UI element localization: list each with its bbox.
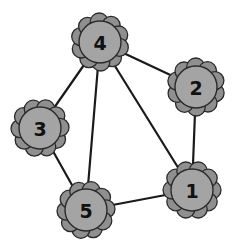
node-1: 1 (163, 162, 221, 218)
node-5: 5 (57, 182, 115, 239)
node-label: 1 (185, 180, 198, 202)
node-3: 3 (11, 100, 69, 156)
node-label: 5 (79, 200, 92, 222)
graph-diagram: 12345 (0, 0, 235, 250)
node-label: 4 (93, 32, 106, 54)
node-label: 2 (189, 77, 202, 99)
node-2: 2 (168, 58, 224, 116)
node-4: 4 (72, 13, 129, 71)
node-label: 3 (33, 118, 46, 140)
